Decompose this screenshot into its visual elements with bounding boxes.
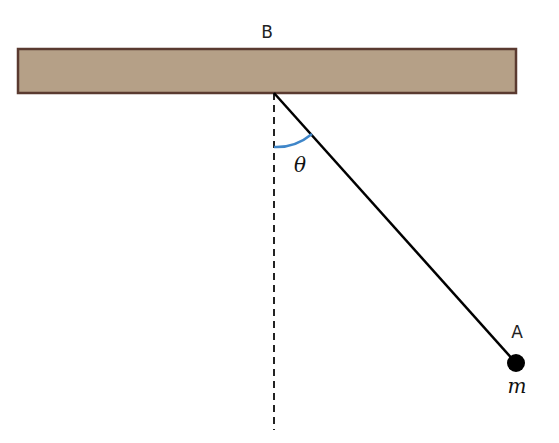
angle-label: θ [294,153,306,177]
mass-label: m [508,374,527,398]
pendulum-diagram: B θ A m [0,0,559,443]
angle-arc [274,134,312,147]
pendulum-string [274,93,516,363]
bob-label: A [511,322,523,342]
pivot-label: B [261,22,273,42]
pendulum-bob [507,354,525,372]
ceiling-beam [18,49,516,93]
